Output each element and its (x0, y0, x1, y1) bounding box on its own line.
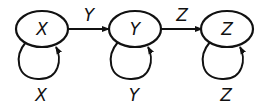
state-x-label: X (35, 19, 48, 39)
edge-y-to-z-label: Z (175, 5, 188, 25)
edge-x-to-y-label: Y (84, 5, 96, 25)
self-loop-y-label: Y (129, 85, 141, 105)
state-diagram: X Y Z Y Z X Y Z (0, 0, 269, 108)
state-z-label: Z (220, 19, 233, 39)
self-loop-x-label: X (34, 85, 47, 105)
self-loop-z-label: Z (219, 85, 232, 105)
state-y-label: Y (130, 19, 142, 39)
